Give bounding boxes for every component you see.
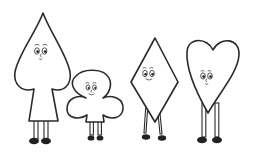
- club-character: [67, 70, 123, 140]
- heart-body: [187, 41, 239, 114]
- spade-character: [15, 13, 71, 144]
- spade-body: [15, 13, 71, 121]
- card-suit-characters-illustration: [0, 0, 257, 159]
- diamond-character: [131, 38, 178, 141]
- club-legs: [88, 121, 104, 141]
- club-body: [67, 70, 123, 122]
- diamond-body: [131, 38, 178, 122]
- heart-character: [187, 41, 239, 144]
- spade-legs: [29, 119, 51, 144]
